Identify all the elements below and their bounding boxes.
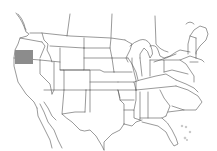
bahamas-islands bbox=[181, 125, 191, 140]
map-svg bbox=[0, 0, 217, 151]
highlighted-region bbox=[15, 50, 33, 64]
canada-boundaries bbox=[67, 14, 168, 52]
us-map bbox=[0, 0, 217, 151]
